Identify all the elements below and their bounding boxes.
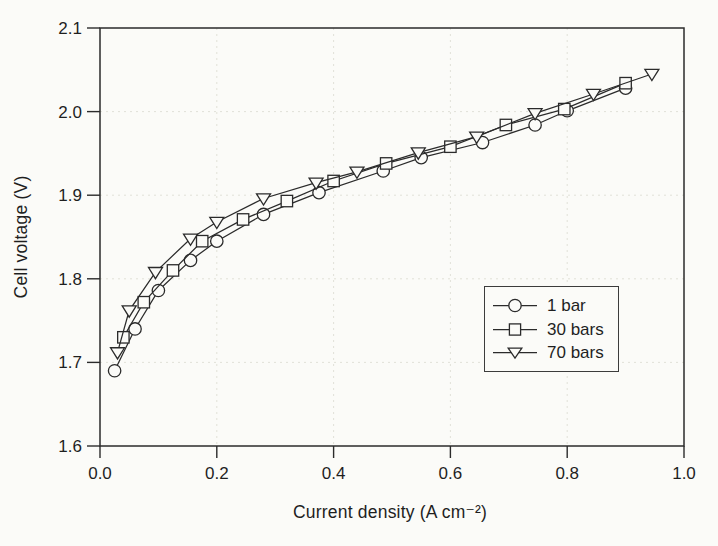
legend-item-1-bar: 1 bar: [492, 297, 616, 314]
y-tick-label: 1.9: [58, 186, 82, 205]
y-tick-label: 2.0: [58, 103, 82, 122]
marker-square: [197, 235, 208, 246]
marker-circle: [257, 208, 269, 220]
x-tick-label: 1.0: [672, 464, 696, 483]
circle-marker-icon: [492, 297, 538, 314]
y-tick-label: 1.7: [58, 353, 82, 372]
y-tick-label: 2.1: [58, 19, 82, 38]
legend-label: 1 bar: [547, 297, 586, 314]
legend: 1 bar 30 bars 70 bars: [484, 286, 619, 372]
y-axis-title: Cell voltage (V): [11, 176, 32, 299]
square-marker-icon: [492, 321, 538, 338]
legend-item-70-bars: 70 bars: [492, 344, 616, 361]
x-tick-label: 0.2: [205, 464, 229, 483]
marker-circle: [211, 235, 223, 247]
y-tick-label: 1.6: [58, 437, 82, 456]
x-axis-title: Current density (A cm⁻²): [293, 502, 487, 523]
x-tick-label: 0.8: [555, 464, 579, 483]
plot-canvas: 0.00.20.40.60.81.01.61.71.81.92.02.1: [0, 0, 718, 546]
x-tick-label: 0.4: [322, 464, 346, 483]
marker-circle: [184, 254, 196, 266]
marker-circle: [108, 365, 120, 377]
marker-triangle-down: [122, 306, 136, 317]
x-tick-label: 0.6: [439, 464, 463, 483]
legend-label: 30 bars: [547, 321, 604, 338]
triangle-down-marker-icon: [492, 344, 538, 361]
marker-triangle-down: [148, 268, 162, 279]
legend-item-30-bars: 30 bars: [492, 321, 616, 338]
marker-square: [167, 265, 178, 276]
marker-square: [281, 195, 292, 206]
chart-figure: 0.00.20.40.60.81.01.61.71.81.92.02.1 Cel…: [0, 0, 718, 546]
marker-square: [237, 214, 248, 225]
marker-square: [138, 297, 149, 308]
y-tick-label: 1.8: [58, 270, 82, 289]
legend-label: 70 bars: [547, 344, 604, 361]
marker-triangle-down: [210, 217, 224, 228]
marker-triangle-down: [257, 194, 271, 205]
x-tick-label: 0.0: [88, 464, 112, 483]
marker-circle: [313, 186, 325, 198]
marker-triangle-down: [645, 69, 659, 80]
